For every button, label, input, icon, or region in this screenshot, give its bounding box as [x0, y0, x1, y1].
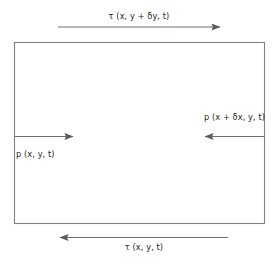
shear-stress-top-label: τ (x, y + δy, t)	[109, 12, 170, 20]
pressure-left-label: p (x, y, t)	[16, 150, 55, 158]
pressure-right-label: p (x + δx, y, t)	[204, 113, 265, 121]
diagram-vector-layer	[0, 0, 279, 265]
fluid-element-rectangle	[15, 43, 265, 224]
diagram-canvas: τ (x, y + δy, t) τ (x, y, t) p (x, y, t)…	[0, 0, 279, 265]
shear-stress-bottom-label: τ (x, y, t)	[125, 243, 163, 251]
